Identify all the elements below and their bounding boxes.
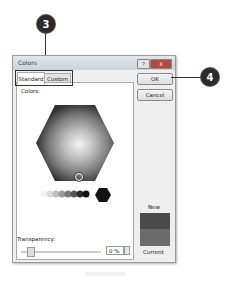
help-button[interactable]: ? bbox=[137, 59, 150, 69]
cancel-label: Cancel bbox=[146, 92, 165, 98]
new-label: New bbox=[148, 204, 160, 210]
transparency-slider-thumb[interactable] bbox=[27, 247, 35, 257]
current-color-swatch bbox=[140, 229, 170, 246]
current-label: Current bbox=[143, 249, 164, 255]
ok-label: OK bbox=[151, 76, 159, 82]
ok-button[interactable]: OK bbox=[137, 73, 173, 85]
transparency-value: 0 % bbox=[109, 248, 119, 254]
standard-tab-panel: Colors: bbox=[16, 82, 134, 260]
callout-4-badge: 4 bbox=[201, 68, 219, 86]
color-hexagon[interactable] bbox=[35, 103, 115, 189]
callout-3-number: 3 bbox=[43, 19, 50, 30]
cancel-button[interactable]: Cancel bbox=[137, 89, 173, 101]
close-icon: X bbox=[159, 61, 162, 67]
transparency-input[interactable]: 0 % bbox=[106, 246, 124, 255]
colors-label: Colors: bbox=[21, 88, 40, 94]
tabs-highlight bbox=[15, 70, 73, 86]
colors-dialog: Colors ? X Standard Custom Colors: bbox=[12, 55, 176, 263]
faint-caption bbox=[85, 272, 125, 276]
callout-4-number: 4 bbox=[207, 72, 214, 83]
dialog-title: Colors bbox=[18, 59, 37, 66]
transparency-label: Transparency: bbox=[17, 236, 55, 242]
help-icon: ? bbox=[142, 61, 145, 67]
callout-4-leader bbox=[171, 77, 201, 78]
transparency-spinner[interactable] bbox=[124, 246, 130, 255]
grayscale-swatches[interactable] bbox=[39, 187, 119, 206]
title-bar: Colors ? X bbox=[13, 56, 175, 70]
close-button[interactable]: X bbox=[150, 59, 172, 69]
new-color-swatch bbox=[140, 213, 170, 229]
callout-3-badge: 3 bbox=[37, 15, 55, 33]
